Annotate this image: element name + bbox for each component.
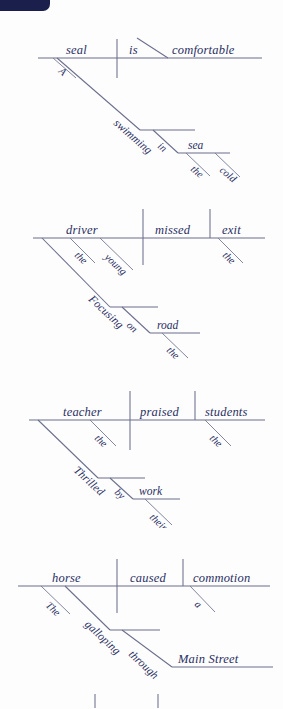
word-prep-object-modifier: the: [165, 344, 182, 361]
word-object-modifier: the: [208, 432, 225, 449]
word-prep-object: road: [157, 319, 179, 331]
diagram-teacher: teacher praised students the the Thrille…: [0, 378, 283, 528]
participle-slant: [57, 58, 140, 130]
word-subject-modifier: The: [44, 599, 63, 618]
word-direct-object: students: [205, 405, 248, 419]
word-preposition: by: [113, 486, 128, 501]
word-subject: driver: [66, 223, 98, 237]
word-direct-object: commotion: [193, 571, 250, 585]
word-subject-modifier-2: young: [102, 251, 129, 277]
word-subject: seal: [66, 43, 87, 57]
word-verb: praised: [139, 405, 179, 419]
word-prep-object: sea: [188, 139, 204, 151]
word-verb: missed: [155, 223, 191, 237]
word-subject-modifier-1: the: [73, 249, 90, 266]
corner-badge: [0, 0, 50, 11]
diagram-partial-cutoff: [0, 694, 283, 709]
word-prep-object-modifier-2: cold: [218, 164, 239, 185]
word-subject: horse: [52, 571, 81, 585]
word-prep-object: work: [139, 485, 163, 497]
page-canvas: seal is comfortable A swimming in sea th…: [0, 0, 283, 709]
word-predicate-adjective: comfortable: [172, 43, 235, 57]
word-participle: Focusing: [85, 292, 126, 332]
word-participle: swimming: [111, 116, 155, 157]
word-participle: galloping: [82, 618, 123, 658]
word-subject-modifier: the: [93, 432, 110, 449]
word-preposition: through: [126, 648, 161, 682]
word-participle: Thrilled: [72, 464, 107, 498]
word-verb: caused: [130, 571, 166, 585]
word-prep-object: Main Street: [177, 652, 239, 666]
word-object-modifier: a: [193, 598, 204, 610]
word-prep-object-modifier-1: the: [189, 163, 206, 180]
diagram-horse: horse caused commotion The a galloping t…: [0, 545, 283, 685]
participle-slant: [38, 420, 98, 478]
object-modifier-slant: [190, 586, 215, 612]
diagram-seal: seal is comfortable A swimming in sea th…: [0, 20, 283, 195]
diagram-driver: driver missed exit the young the Focusin…: [0, 205, 283, 365]
predicate-slant: [137, 38, 168, 58]
word-subject: teacher: [63, 405, 102, 419]
word-verb: is: [129, 43, 138, 57]
word-object-modifier: the: [221, 249, 238, 266]
word-direct-object: exit: [222, 223, 241, 237]
